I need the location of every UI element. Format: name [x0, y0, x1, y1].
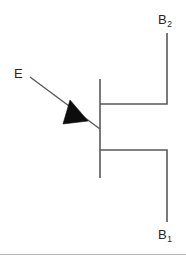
base2-lead: [100, 33, 167, 104]
label-base-one-text: B: [158, 227, 167, 242]
schematic-canvas: B2 B1 E: [0, 0, 186, 255]
ujt-symbol-drawing: [0, 0, 186, 255]
label-base-two: B2: [158, 13, 172, 26]
label-base-one-subscript: 1: [167, 234, 172, 244]
label-base-two-subscript: 2: [167, 19, 172, 29]
label-base-two-text: B: [158, 12, 167, 27]
label-emitter: E: [14, 67, 23, 80]
label-base-one: B1: [158, 228, 172, 241]
base1-lead: [100, 150, 167, 222]
label-emitter-text: E: [14, 66, 23, 81]
